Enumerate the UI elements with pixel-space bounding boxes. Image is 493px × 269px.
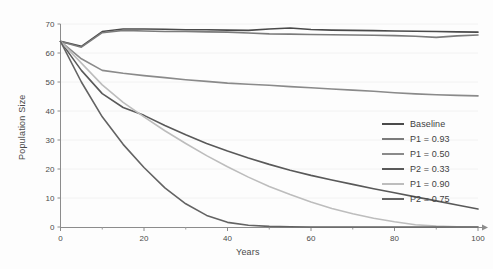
legend-swatch-icon (382, 198, 404, 200)
x-tick-label: 40 (223, 234, 232, 243)
legend-item[interactable]: P1 = 0.90 (382, 176, 490, 191)
legend-swatch-icon (382, 123, 404, 125)
y-tick-label: 10 (46, 194, 55, 203)
series-line (61, 41, 479, 96)
y-tick-label: 0 (50, 223, 55, 232)
legend-item-label: P1 = 0.50 (410, 149, 450, 159)
legend-swatch-icon (382, 153, 404, 155)
y-tick-label: 20 (46, 165, 55, 174)
legend-item-label: P1 = 0.93 (410, 134, 450, 144)
y-tick-label: 30 (46, 136, 55, 145)
x-axis-title: Years (236, 247, 260, 257)
legend-item[interactable]: P2 = 0.33 (382, 161, 490, 176)
x-tick-label: 80 (390, 234, 399, 243)
legend-swatch-icon (382, 183, 404, 185)
legend-item[interactable]: P1 = 0.50 (382, 146, 490, 161)
legend-item-label: P2 = 0.33 (410, 164, 450, 174)
legend-item-label: P2 = 0.75 (410, 194, 450, 204)
chart-legend: BaselineP1 = 0.93P1 = 0.50P2 = 0.33P1 = … (382, 116, 490, 206)
chart-figure: 010203040506070 020406080100 Population … (0, 0, 493, 269)
legend-swatch-icon (382, 168, 404, 170)
x-axis-ticks: 020406080100 (58, 227, 485, 243)
legend-item[interactable]: P2 = 0.75 (382, 191, 490, 206)
x-tick-label: 0 (58, 234, 63, 243)
y-tick-label: 50 (46, 78, 55, 87)
legend-item[interactable]: Baseline (382, 116, 490, 131)
legend-item-label: Baseline (410, 119, 445, 129)
y-axis-title: Population Size (17, 94, 27, 160)
y-tick-label: 70 (46, 20, 55, 29)
x-tick-label: 60 (307, 234, 316, 243)
legend-item[interactable]: P1 = 0.93 (382, 131, 490, 146)
x-tick-label: 20 (140, 234, 149, 243)
legend-item-label: P1 = 0.90 (410, 179, 450, 189)
y-axis-ticks: 010203040506070 (46, 20, 61, 232)
x-tick-label: 100 (471, 234, 485, 243)
legend-swatch-icon (382, 138, 404, 140)
series-line (61, 30, 479, 47)
y-tick-label: 60 (46, 49, 55, 58)
y-tick-label: 40 (46, 107, 55, 116)
